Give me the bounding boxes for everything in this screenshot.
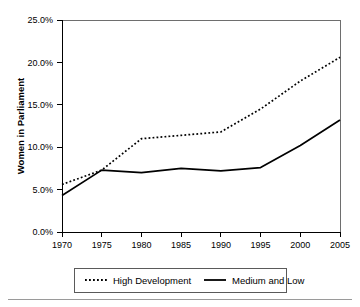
y-axis-tick-labels: 0.0% 5.0% 10.0% 15.0% 20.0% 25.0% <box>27 15 53 237</box>
x-tick-label: 1995 <box>251 240 271 250</box>
y-tick-label: 20.0% <box>27 58 53 68</box>
y-tick-label: 15.0% <box>27 100 53 110</box>
x-tick-label: 1970 <box>52 240 72 250</box>
plot-frame <box>62 20 340 232</box>
legend-label-medium-and-low: Medium and Low <box>232 275 304 286</box>
x-axis-ticks <box>62 232 340 237</box>
chart-legend: High Development Medium and Low <box>74 268 304 292</box>
y-tick-label: 10.0% <box>27 142 53 152</box>
legend-label-high-development: High Development <box>113 275 192 286</box>
line-chart: 0.0% 5.0% 10.0% 15.0% 20.0% 25.0% 1970 1… <box>0 0 360 307</box>
x-tick-label: 2000 <box>290 240 310 250</box>
plot-axes <box>62 20 340 232</box>
y-axis-title: Women in Parliament <box>15 77 26 174</box>
x-tick-label: 1990 <box>211 240 231 250</box>
y-tick-label: 25.0% <box>27 15 53 25</box>
chart-figure: 0.0% 5.0% 10.0% 15.0% 20.0% 25.0% 1970 1… <box>0 0 360 307</box>
y-tick-label: 0.0% <box>32 227 53 237</box>
series-medium-and-low <box>62 120 340 195</box>
y-tick-label: 5.0% <box>32 185 53 195</box>
x-tick-label: 1985 <box>171 240 191 250</box>
y-axis-ticks <box>57 20 62 232</box>
x-tick-label: 2005 <box>330 240 350 250</box>
x-tick-label: 1975 <box>92 240 112 250</box>
x-tick-label: 1980 <box>131 240 151 250</box>
series-high-development <box>62 57 340 184</box>
x-axis-tick-labels: 1970 1975 1980 1985 1990 1995 2000 2005 <box>52 240 350 250</box>
